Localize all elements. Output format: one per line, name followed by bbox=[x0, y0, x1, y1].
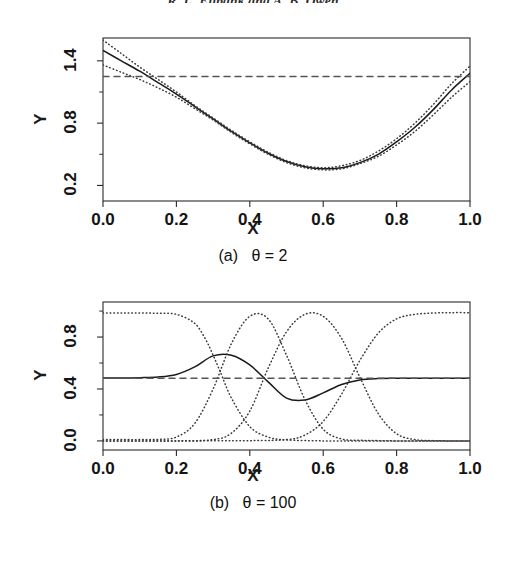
panel-b: Y 0.0 0.4 0.8 0.0 0.2 0.4 0.6 0.8 1.0 X … bbox=[0, 290, 506, 560]
figure-root: R. L. Eubank and A. B. Owen Y 0.2 0.8 1.… bbox=[0, 0, 506, 567]
panel-b-y-axis-title: Y bbox=[31, 345, 51, 405]
panel-b-x-axis-title: X bbox=[0, 466, 506, 486]
panel-a-ytick-0: 0.2 bbox=[61, 162, 81, 206]
panel-b-ytick-1: 0.4 bbox=[61, 366, 81, 410]
running-head: R. L. Eubank and A. B. Owen bbox=[0, 0, 506, 3]
panel-a-ytick-1: 0.8 bbox=[61, 100, 81, 144]
panel-a-caption: (a) θ = 2 bbox=[0, 247, 506, 265]
panel-b-ytick-0: 0.0 bbox=[61, 418, 81, 462]
panel-a: Y 0.2 0.8 1.4 0.0 0.2 0.4 0.6 0.8 1.0 X … bbox=[0, 20, 506, 275]
panel-a-y-axis-title: Y bbox=[31, 89, 51, 149]
panel-a-x-axis-title: X bbox=[0, 219, 506, 239]
panel-b-ytick-2: 0.8 bbox=[61, 314, 81, 358]
panel-b-caption: (b) θ = 100 bbox=[0, 494, 506, 512]
panel-a-ytick-2: 1.4 bbox=[61, 38, 81, 82]
